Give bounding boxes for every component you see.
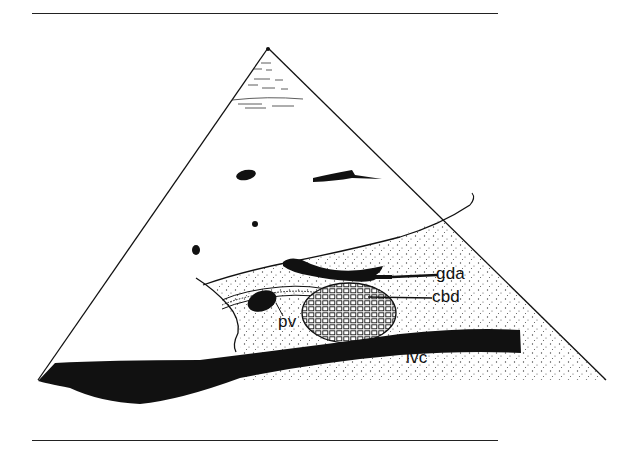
label-ivc: ivc bbox=[406, 349, 427, 366]
label-gda: gda bbox=[436, 265, 465, 282]
cbd-structure bbox=[302, 283, 396, 343]
label-cbd: cbd bbox=[432, 288, 460, 305]
echo-streak bbox=[313, 170, 382, 182]
echo-blob bbox=[235, 168, 257, 182]
echo-dot bbox=[252, 221, 258, 227]
echo-dot bbox=[192, 245, 200, 255]
label-pv: pv bbox=[278, 313, 296, 330]
ultrasound-diagram bbox=[0, 0, 642, 453]
